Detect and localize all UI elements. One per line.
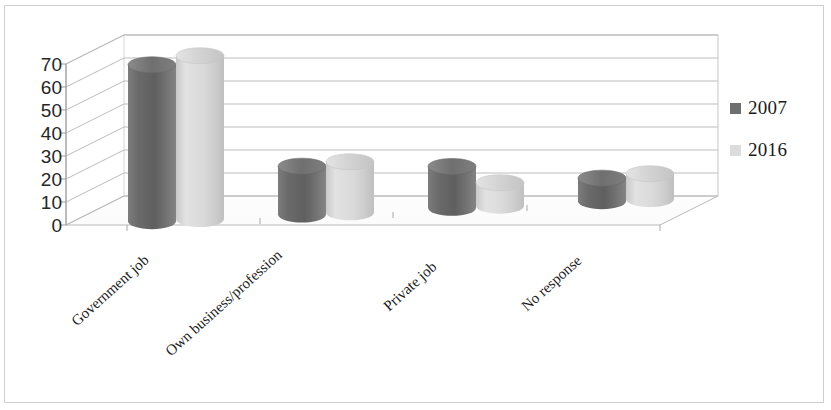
chart-svg-canvas <box>0 0 831 410</box>
y-tick-30: 30 <box>20 147 62 166</box>
y-tick-20: 20 <box>20 170 62 189</box>
bar-2007-own-business-profession <box>278 158 326 222</box>
y-tick-60: 60 <box>20 78 62 97</box>
chart-legend: 2007 2016 <box>730 98 787 182</box>
bar-2016-private-job <box>476 175 524 214</box>
y-tick-70: 70 <box>20 55 62 74</box>
legend-swatch-2016 <box>730 145 741 156</box>
bar-group-private-job <box>428 158 524 215</box>
bar-2016-government-job <box>176 48 224 227</box>
bar-group-own-business-profession <box>278 154 374 223</box>
bar-group-government-job <box>128 48 224 229</box>
y-tick-10: 10 <box>20 193 62 212</box>
bar-2016-own-business-profession <box>326 154 374 221</box>
bar-2007-private-job <box>428 158 476 215</box>
y-tick-40: 40 <box>20 124 62 143</box>
y-tick-50: 50 <box>20 101 62 120</box>
y-axis-tick-labels: 70 60 50 40 30 20 10 0 <box>10 0 62 410</box>
legend-swatch-2007 <box>730 103 741 114</box>
legend-item-2007: 2007 <box>730 98 787 118</box>
bar-2007-no-response <box>578 170 626 209</box>
legend-item-2016: 2016 <box>730 140 787 160</box>
legend-label-2007: 2007 <box>748 97 787 119</box>
bar-2007-government-job <box>128 57 176 229</box>
bar-2016-no-response <box>626 166 674 207</box>
legend-label-2016: 2016 <box>748 139 787 161</box>
chart-plot-area: 70 60 50 40 30 20 10 0 Government job Ow… <box>0 0 831 410</box>
y-tick-0: 0 <box>20 216 62 235</box>
